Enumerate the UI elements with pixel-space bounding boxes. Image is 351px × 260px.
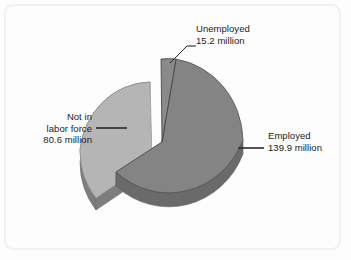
slice-label-unemployed-name: Unemployed (196, 23, 250, 35)
slice-label-unemployed-value: 15.2 million (196, 35, 250, 47)
slice-label-employed: Employed 139.9 million (268, 130, 322, 153)
slice-label-not-in-labor-force-name-1: Not in (18, 111, 92, 123)
slice-label-not-in-labor-force-value: 80.6 million (18, 134, 92, 146)
slice-label-not-in-labor-force: Not in labor force 80.6 million (18, 111, 92, 146)
pie-chart-figure: Unemployed 15.2 million Not in labor for… (0, 0, 351, 260)
slice-label-unemployed: Unemployed 15.2 million (196, 23, 250, 46)
slice-label-employed-value: 139.9 million (268, 142, 322, 154)
slice-label-not-in-labor-force-name-2: labor force (18, 123, 92, 135)
slice-label-employed-name: Employed (268, 130, 322, 142)
